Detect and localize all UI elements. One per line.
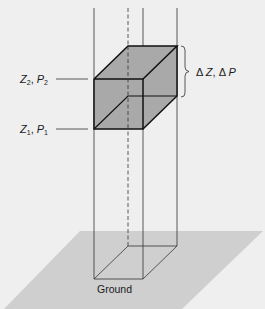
volume-element-cube <box>94 46 177 129</box>
ground-plane <box>4 231 263 309</box>
delta-brace <box>181 46 189 97</box>
upper-level-label: Z2, P2 <box>19 73 48 86</box>
delta-label: Δ Z, Δ P <box>196 66 236 78</box>
air-column-diagram: Z2, P2 Z1, P1 Δ Z, Δ P Ground <box>0 0 265 309</box>
ground-label: Ground <box>97 283 132 295</box>
lower-level-label: Z1, P1 <box>19 123 48 136</box>
